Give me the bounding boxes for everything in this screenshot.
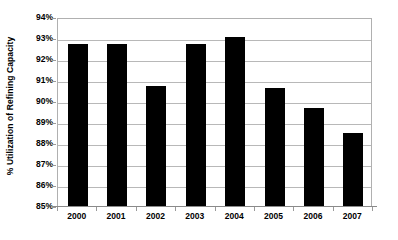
x-axis-tick-mark xyxy=(96,207,97,211)
x-axis-tick-label: 2006 xyxy=(293,210,332,222)
bar-2002 xyxy=(146,86,166,206)
plot-area xyxy=(57,18,372,207)
bar-slot xyxy=(137,19,176,206)
y-axis-title-text: % Utilization of Refining Capacity xyxy=(5,37,15,175)
x-axis-tick-label: 2001 xyxy=(96,210,135,222)
bar-2006 xyxy=(304,108,324,206)
y-axis-tick-label: 85% xyxy=(20,202,53,211)
bar-2007 xyxy=(343,133,363,207)
y-axis-tick-labels: 85%86%87%88%89%90%91%92%93%94% xyxy=(20,0,56,240)
y-axis-tick-label: 90% xyxy=(20,97,53,106)
x-axis-tick-label: 2002 xyxy=(136,210,175,222)
y-axis-tick-mark xyxy=(52,144,56,145)
x-axis-tick-mark xyxy=(175,207,176,211)
x-axis-tick-mark xyxy=(254,207,255,211)
y-axis-tick-mark xyxy=(52,81,56,82)
y-axis-tick-mark xyxy=(52,207,56,208)
y-axis-tick-label: 89% xyxy=(20,118,53,127)
x-axis-tick-mark xyxy=(293,207,294,211)
bar-slot xyxy=(255,19,294,206)
y-axis-title: % Utilization of Refining Capacity xyxy=(0,0,20,212)
y-axis-tick-mark xyxy=(52,60,56,61)
bar-2001 xyxy=(107,44,127,206)
x-axis-tick-labels: 20002001200220032004200520062007 xyxy=(57,210,372,226)
x-axis-tick-mark xyxy=(215,207,216,211)
y-axis-tick-label: 87% xyxy=(20,160,53,169)
bar-slot xyxy=(176,19,215,206)
y-axis-tick-mark xyxy=(52,39,56,40)
bar-2004 xyxy=(225,37,245,206)
y-axis-tick-label: 93% xyxy=(20,34,53,43)
y-axis-tick-mark xyxy=(52,123,56,124)
bar-slot xyxy=(216,19,255,206)
x-axis-tick-mark xyxy=(136,207,137,211)
x-axis-tick-label: 2003 xyxy=(175,210,214,222)
y-axis-tick-label: 91% xyxy=(20,76,53,85)
x-axis-tick-mark xyxy=(333,207,334,211)
y-axis-tick-label: 86% xyxy=(20,181,53,190)
y-axis-tick-label: 94% xyxy=(20,13,53,22)
bars-group xyxy=(58,19,371,206)
bar-slot xyxy=(58,19,97,206)
bar-slot xyxy=(97,19,136,206)
bar-2005 xyxy=(265,88,285,206)
bar-slot xyxy=(294,19,333,206)
bar-chart-figure: % Utilization of Refining Capacity 85%86… xyxy=(0,0,398,240)
y-axis-tick-label: 92% xyxy=(20,55,53,64)
x-axis-tick-label: 2007 xyxy=(333,210,372,222)
y-axis-tick-label: 88% xyxy=(20,139,53,148)
y-axis-tick-mark xyxy=(52,186,56,187)
x-axis-tick-label: 2000 xyxy=(57,210,96,222)
y-axis-tick-mark xyxy=(52,102,56,103)
x-axis-tick-mark xyxy=(372,207,373,211)
bar-2003 xyxy=(186,44,206,206)
y-axis-tick-mark xyxy=(52,18,56,19)
bar-slot xyxy=(334,19,373,206)
x-axis-tick-label: 2004 xyxy=(215,210,254,222)
x-axis-tick-mark xyxy=(57,207,58,211)
bar-2000 xyxy=(68,44,88,206)
x-axis-tick-label: 2005 xyxy=(254,210,293,222)
y-axis-tick-mark xyxy=(52,165,56,166)
